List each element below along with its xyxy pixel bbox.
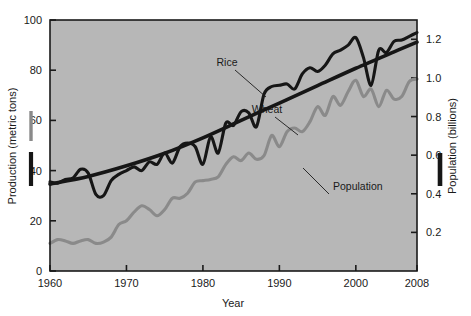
y-axis-left-tick-label: 0 (36, 265, 42, 277)
y-axis-right-tick-label: 1.2 (426, 33, 441, 45)
y-axis-left-tick-label: 80 (30, 64, 42, 76)
x-axis-tick-label: 1990 (267, 277, 291, 289)
y-axis-right-tick-label: 0.8 (426, 111, 441, 123)
annotation-label-wheat: Wheat (252, 103, 282, 115)
y-axis-left-tick-label: 20 (30, 215, 42, 227)
y-axis-left-title: Production (metric tons) (6, 88, 18, 205)
x-axis-tick-label: 1970 (114, 277, 138, 289)
production-population-line-chart: 020406080100 0.20.40.60.81.01.2 19601970… (0, 0, 471, 316)
y-axis-right-tick-label: 0.4 (426, 188, 441, 200)
x-axis-tick-label: 1980 (191, 277, 215, 289)
y-axis-left-tick-label: 100 (24, 14, 42, 26)
y-axis-right-title: Population (billions) (446, 98, 458, 194)
x-axis-title: Year (222, 297, 245, 309)
x-axis-tick-label: 1960 (38, 277, 62, 289)
y-axis-right-tick-label: 0.2 (426, 226, 441, 238)
x-axis-tick-label: 2000 (344, 277, 368, 289)
x-axis-tick-label: 2008 (405, 277, 429, 289)
chart-figure: 020406080100 0.20.40.60.81.01.2 19601970… (0, 0, 471, 316)
annotation-label-rice: Rice (216, 56, 237, 68)
y-axis-right-tick-label: 1.0 (426, 72, 441, 84)
annotation-label-population: Population (333, 180, 383, 192)
